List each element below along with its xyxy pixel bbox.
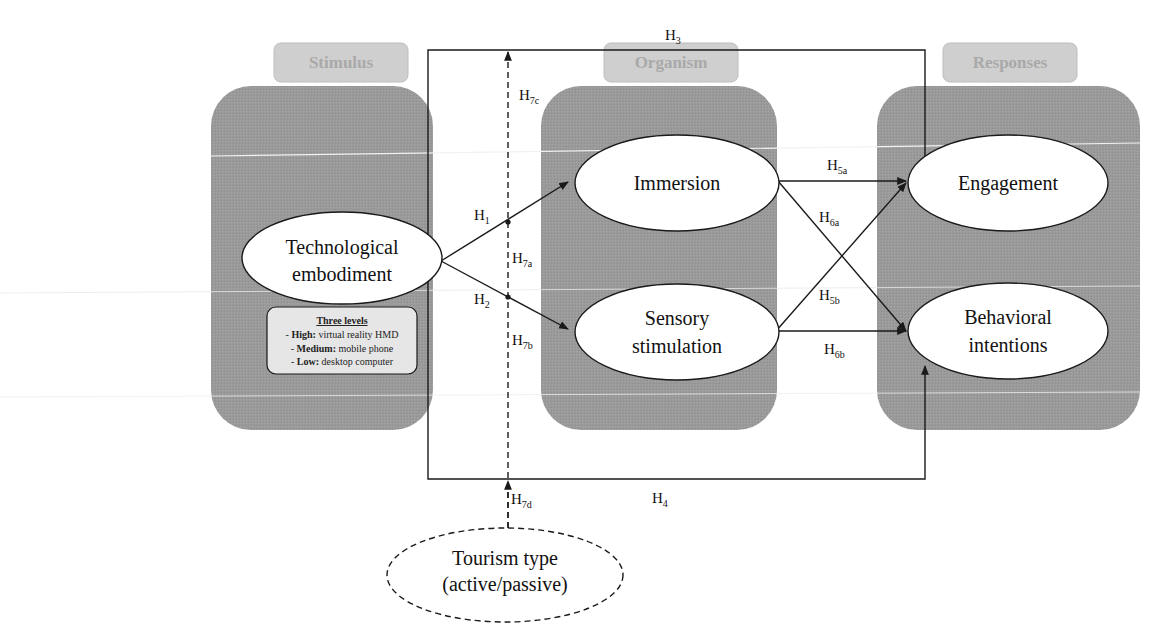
h7d-label: H7d	[511, 491, 532, 510]
h7a-label: H7a	[512, 250, 533, 269]
svg-text:Sensory: Sensory	[645, 307, 709, 330]
svg-text:Technological: Technological	[286, 236, 399, 259]
stimulus-title: Stimulus	[309, 53, 374, 72]
svg-text:Tourism type: Tourism type	[452, 547, 558, 570]
h5a-label: H5a	[827, 157, 848, 176]
levels-box: Three levels - High: virtual reality HMD…	[267, 307, 417, 374]
level-medium: - Medium: mobile phone	[291, 343, 394, 354]
h7b-junction-dot	[505, 294, 510, 299]
node-immersion: Immersion	[575, 135, 779, 231]
level-low: - Low: desktop computer	[291, 356, 394, 367]
h1-label: H1	[474, 207, 490, 226]
organism-title: Organism	[635, 53, 708, 72]
node-sensory-stimulation: Sensory stimulation	[575, 284, 779, 380]
svg-text:Immersion: Immersion	[634, 172, 721, 194]
h5b-label: H5b	[819, 287, 840, 306]
node-tourism-type: Tourism type (active/passive)	[387, 528, 623, 622]
h6b-label: H6b	[824, 341, 845, 360]
level-high: - High: virtual reality HMD	[286, 329, 399, 340]
levels-title: Three levels	[316, 315, 367, 326]
h7b-label: H7b	[512, 332, 533, 351]
node-engagement: Engagement	[908, 135, 1108, 231]
h4-label: H4	[652, 490, 668, 509]
svg-text:(active/passive): (active/passive)	[442, 573, 568, 596]
h2-label: H2	[474, 291, 490, 310]
svg-text:embodiment: embodiment	[292, 263, 392, 285]
responses-title: Responses	[973, 53, 1048, 72]
h7c-label: H7c	[519, 87, 540, 106]
node-behavioral-intentions: Behavioral intentions	[908, 283, 1108, 379]
node-technological-embodiment: Technological embodiment	[242, 212, 442, 304]
svg-text:intentions: intentions	[969, 334, 1048, 356]
svg-text:Behavioral: Behavioral	[964, 306, 1052, 328]
h7a-junction-dot	[505, 219, 510, 224]
som-framework-diagram: Stimulus Organism Responses Technologica…	[0, 0, 1170, 635]
h6a-label: H6a	[819, 209, 840, 228]
svg-text:stimulation: stimulation	[632, 335, 722, 357]
svg-text:Engagement: Engagement	[958, 172, 1058, 195]
